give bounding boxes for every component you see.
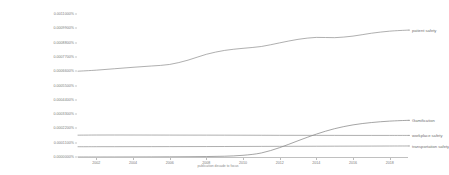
y-axis-tick-mark [75,99,77,100]
y-axis-tick-mark [75,14,77,15]
y-axis-tick-mark [75,42,77,43]
ngram-line-chart: 0.0011000%0.0009900%0.0008800%0.0007700%… [0,0,449,175]
y-axis-tick-label: 0.0011000% [54,12,74,16]
y-axis-tick-label: 0.0009900% [53,26,74,30]
y-axis-tick-mark [75,28,77,29]
series-line [78,120,408,157]
plot-lines [78,0,408,175]
series-label[interactable]: patient safety [412,28,436,33]
y-axis-tick-label: 0.0008800% [53,41,74,45]
y-axis-tick-mark [75,71,77,72]
series-line [78,30,408,71]
y-axis-tick-mark [75,128,77,129]
series-line [78,146,408,147]
y-axis-tick-mark [75,142,77,143]
y-axis-tick-mark [75,157,77,158]
x-axis-tick-label: 2014 [312,161,320,165]
series-label[interactable]: transportation safety [412,143,449,148]
x-axis-tick-label: 2012 [276,161,284,165]
y-axis-tick-label: 0.0001100% [54,141,74,145]
x-axis-title: publication decade to focus [197,164,238,168]
y-axis: 0.0011000%0.0009900%0.0008800%0.0007700%… [0,0,78,175]
x-axis-tick-label: 2004 [129,161,137,165]
x-axis-tick-label: 2006 [166,161,174,165]
y-axis-tick-label: 0.0005500% [53,84,74,88]
y-axis-tick-label: 0.0000000% [53,155,74,159]
plot-area [78,0,408,175]
y-axis-tick-label: 0.0006600% [53,69,74,73]
series-label[interactable]: workplace safety [412,133,443,138]
y-axis-tick-label: 0.0003300% [53,112,74,116]
y-axis-tick-mark [75,85,77,86]
y-axis-tick-label: 0.0002200% [53,126,74,130]
y-axis-tick-label: 0.0004400% [53,98,74,102]
x-axis-tick-label: 2016 [349,161,357,165]
x-axis-tick-label: 2010 [239,161,247,165]
y-axis-tick-label: 0.0007700% [53,55,74,59]
y-axis-tick-mark [75,56,77,57]
x-axis-tick-label: 2002 [92,161,100,165]
series-label[interactable]: Gamification [412,118,435,123]
x-axis-tick-label: 2018 [386,161,394,165]
y-axis-tick-mark [75,114,77,115]
